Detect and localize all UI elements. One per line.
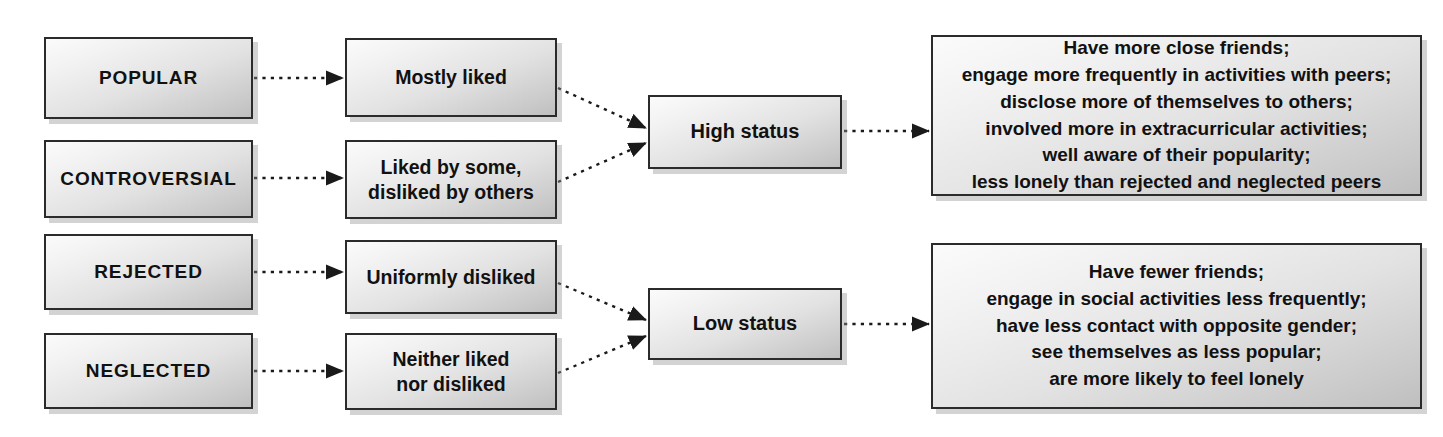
node-label: Liked by some, disliked by others (362, 155, 540, 204)
node-status-low[interactable]: Low status (648, 288, 842, 360)
node-label: POPULAR (93, 66, 204, 90)
connector-mostly-liked-to-high-status (558, 88, 646, 128)
node-label: REJECTED (88, 260, 209, 284)
node-label: Have more close friends; engage more fre… (956, 35, 1398, 197)
node-category-popular[interactable]: POPULAR (44, 37, 253, 119)
node-status-high[interactable]: High status (648, 95, 842, 169)
node-label: High status (685, 119, 806, 144)
node-outcome-high-status[interactable]: Have more close friends; engage more fre… (931, 35, 1422, 196)
connector-neither-liked-to-low-status (558, 336, 646, 373)
node-label: Have fewer friends; engage in social act… (980, 259, 1372, 394)
connector-uniformly-disliked-to-low-status (558, 283, 646, 320)
node-label: CONTROVERSIAL (54, 167, 242, 191)
node-category-neglected[interactable]: NEGLECTED (44, 333, 253, 409)
node-label: NEGLECTED (80, 359, 217, 383)
connector-liked-by-some-to-high-status (558, 143, 646, 182)
node-label: Mostly liked (389, 65, 513, 90)
node-category-rejected[interactable]: REJECTED (44, 234, 253, 310)
diagram-canvas: POPULAR CONTROVERSIAL REJECTED NEGLECTED… (0, 0, 1443, 437)
node-label: Low status (687, 311, 803, 336)
node-outcome-low-status[interactable]: Have fewer friends; engage in social act… (931, 243, 1422, 409)
node-descriptor-uniformly-disliked[interactable]: Uniformly disliked (345, 240, 557, 314)
node-label: Neither liked nor disliked (386, 347, 515, 396)
node-descriptor-mostly-liked[interactable]: Mostly liked (345, 38, 557, 117)
node-category-controversial[interactable]: CONTROVERSIAL (44, 140, 253, 218)
node-label: Uniformly disliked (360, 265, 541, 290)
node-descriptor-neither-liked[interactable]: Neither liked nor disliked (345, 333, 557, 410)
node-descriptor-liked-by-some[interactable]: Liked by some, disliked by others (345, 140, 557, 219)
